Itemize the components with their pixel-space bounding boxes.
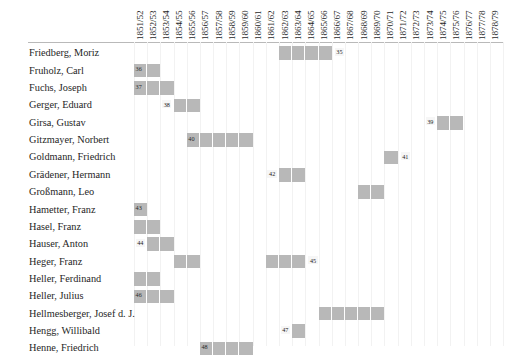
column-header-1869-70: 1869/70 bbox=[372, 11, 382, 40]
footnote-marker[interactable]: 46 bbox=[136, 291, 142, 298]
table-row[interactable]: Gerger, Eduard38 bbox=[0, 97, 513, 114]
column-header-1863-64: 1863/64 bbox=[293, 11, 303, 40]
column-header-1859-60: 1859/60 bbox=[240, 11, 250, 40]
row-label: Fruholz, Carl bbox=[29, 65, 84, 76]
row-label: Hauser, Anton bbox=[29, 239, 88, 250]
table-row[interactable]: Grädener, Hermann42 bbox=[0, 166, 513, 183]
table-row[interactable]: Hametter, Franz43 bbox=[0, 201, 513, 218]
timeline-bar-segment bbox=[292, 46, 305, 60]
table-row[interactable]: Großmann, Leo bbox=[0, 183, 513, 200]
timeline-bar-segment bbox=[147, 81, 160, 95]
timeline-bar-segment bbox=[174, 99, 187, 113]
column-header-1874-75: 1874/75 bbox=[438, 11, 448, 40]
timeline-bar[interactable] bbox=[174, 99, 200, 113]
timeline-bar-segment bbox=[371, 185, 384, 199]
timeline-bar[interactable] bbox=[384, 151, 397, 165]
column-header-1878-79: 1878/79 bbox=[490, 11, 500, 40]
timeline-bar-segment bbox=[160, 290, 173, 304]
timeline-bar[interactable] bbox=[187, 133, 253, 147]
timeline-bar-segment bbox=[450, 116, 463, 130]
column-header-1868-69: 1868/69 bbox=[359, 11, 369, 40]
timeline-bar-segment bbox=[134, 272, 147, 286]
timeline-bar-segment bbox=[332, 307, 345, 321]
table-row[interactable]: Hasel, Franz bbox=[0, 218, 513, 235]
column-header-1876-77: 1876/77 bbox=[464, 11, 474, 40]
footnote-marker[interactable]: 35 bbox=[335, 48, 344, 56]
timeline-bar-segment bbox=[160, 81, 173, 95]
timeline-bar[interactable] bbox=[358, 185, 384, 199]
table-row[interactable]: Friedberg, Moriz35 bbox=[0, 45, 513, 62]
table-row[interactable]: Goldmann, Friedrich41 bbox=[0, 149, 513, 166]
footnote-marker[interactable]: 37 bbox=[136, 83, 142, 90]
footnote-marker[interactable]: 41 bbox=[401, 152, 410, 160]
column-header-1871-72: 1871/72 bbox=[398, 11, 408, 40]
timeline-bar[interactable] bbox=[134, 272, 160, 286]
table-row[interactable]: Fuchs, Joseph37 bbox=[0, 79, 513, 96]
timeline-bar[interactable] bbox=[279, 168, 305, 182]
timeline-bar-segment bbox=[358, 307, 371, 321]
timeline-bar[interactable] bbox=[134, 220, 160, 234]
timeline-bar-segment bbox=[187, 255, 200, 269]
row-label: Großmann, Leo bbox=[29, 186, 94, 197]
footnote-marker[interactable]: 38 bbox=[162, 100, 171, 108]
column-header-1864-65: 1864/65 bbox=[306, 11, 316, 40]
timeline-bar[interactable] bbox=[147, 237, 173, 251]
column-header-1861-62: 1861/62 bbox=[266, 11, 276, 40]
footnote-marker[interactable]: 48 bbox=[202, 343, 208, 350]
table-row[interactable]: Hellmesberger, Josef d. J. bbox=[0, 305, 513, 322]
timeline-bar-segment bbox=[147, 272, 160, 286]
table-row[interactable]: Heller, Julius46 bbox=[0, 288, 513, 305]
timeline-bar-segment bbox=[239, 342, 252, 356]
footnote-marker[interactable]: 43 bbox=[136, 204, 142, 211]
table-row[interactable]: Hauser, Anton44 bbox=[0, 236, 513, 253]
table-row[interactable]: Gitzmayer, Norbert40 bbox=[0, 131, 513, 148]
timeline-bar-segment bbox=[279, 255, 292, 269]
timeline-bar[interactable] bbox=[437, 116, 463, 130]
table-row[interactable]: Fruholz, Carl36 bbox=[0, 62, 513, 79]
timeline-bar[interactable] bbox=[266, 255, 306, 269]
column-header-1855-56: 1855/56 bbox=[187, 11, 197, 40]
row-label: Gitzmayer, Norbert bbox=[29, 134, 109, 145]
footnote-marker[interactable]: 44 bbox=[136, 239, 145, 247]
row-label: Girsa, Gustav bbox=[29, 117, 86, 128]
table-row[interactable]: Henne, Friedrich48 bbox=[0, 340, 513, 357]
timeline-bar[interactable] bbox=[200, 342, 253, 356]
timeline-bar-segment bbox=[147, 237, 160, 251]
timeline-bar[interactable] bbox=[279, 46, 332, 60]
timeline-bar-segment bbox=[345, 307, 358, 321]
timeline-bar-segment bbox=[279, 46, 292, 60]
timeline-bar[interactable] bbox=[174, 255, 200, 269]
column-header-1872-73: 1872/73 bbox=[411, 11, 421, 40]
row-label: Heller, Ferdinand bbox=[29, 273, 101, 284]
timeline-bar-segment bbox=[147, 64, 160, 78]
timeline-bar-segment bbox=[319, 46, 332, 60]
column-header-1866-67: 1866/67 bbox=[332, 11, 342, 40]
table-row[interactable]: Hengg, Willibald47 bbox=[0, 322, 513, 339]
footnote-marker[interactable]: 36 bbox=[136, 65, 142, 72]
column-header-1867-68: 1867/68 bbox=[345, 11, 355, 40]
timeline-bar-segment bbox=[226, 342, 239, 356]
row-label: Fuchs, Joseph bbox=[29, 82, 87, 93]
timeline-bar[interactable] bbox=[292, 324, 305, 338]
table-row[interactable]: Heller, Ferdinand bbox=[0, 270, 513, 287]
row-label: Goldmann, Friedrich bbox=[29, 152, 115, 163]
footnote-marker[interactable]: 42 bbox=[267, 170, 276, 178]
column-header-1854-55: 1854/55 bbox=[174, 11, 184, 40]
timeline-bar-segment bbox=[292, 255, 305, 269]
footnote-marker[interactable]: 45 bbox=[308, 256, 317, 264]
table-row[interactable]: Girsa, Gustav39 bbox=[0, 114, 513, 131]
timeline-bar-segment bbox=[437, 116, 450, 130]
row-label: Henne, Friedrich bbox=[29, 343, 99, 354]
table-row[interactable]: Heger, Franz45 bbox=[0, 253, 513, 270]
footnote-marker[interactable]: 40 bbox=[188, 135, 194, 142]
footnote-marker[interactable]: 47 bbox=[281, 326, 290, 334]
row-label: Heller, Julius bbox=[29, 291, 84, 302]
timeline-bar[interactable] bbox=[319, 307, 385, 321]
timeline-bar-segment bbox=[358, 185, 371, 199]
timeline-bar-segment bbox=[187, 99, 200, 113]
column-header-1870-71: 1870/71 bbox=[385, 11, 395, 40]
row-label: Friedberg, Moriz bbox=[29, 48, 99, 59]
timeline-bar-segment bbox=[292, 324, 305, 338]
footnote-marker[interactable]: 39 bbox=[426, 117, 435, 125]
timeline-bar-segment bbox=[292, 168, 305, 182]
